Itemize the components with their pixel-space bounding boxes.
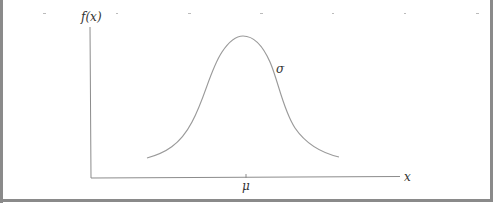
bell-curve xyxy=(147,36,339,158)
normal-distribution-diagram: f(x) x μ σ xyxy=(0,0,495,203)
top-dots xyxy=(43,13,479,14)
x-axis-label: x xyxy=(404,170,411,184)
mean-label: μ xyxy=(242,179,250,193)
sigma-label: σ xyxy=(276,62,285,76)
y-axis xyxy=(90,27,91,178)
frame-border xyxy=(0,0,493,203)
y-axis-label: f(x) xyxy=(80,10,102,24)
